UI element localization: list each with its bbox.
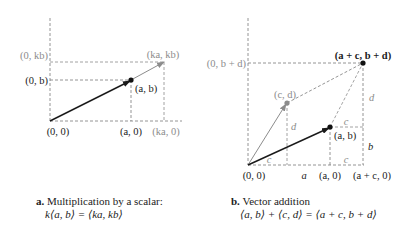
- label-y-b: (0, b): [25, 75, 48, 87]
- panel-b-diagram: (0, b + d) (a + c, b + d) (c, d) (a, b) …: [207, 18, 392, 182]
- caption-b-title: Vector addition: [242, 195, 310, 207]
- caption-a: a. Multiplication by a scalar: k⟨a, b⟩ =…: [36, 195, 163, 221]
- label-y-bd: (0, b + d): [207, 58, 247, 70]
- point-ab: [128, 77, 133, 82]
- label-y-kb: (0, kb): [20, 50, 48, 62]
- label-seg-a: a: [301, 170, 306, 181]
- caption-b: b. Vector addition ⟨a, b⟩ + ⟨c, d⟩ = ⟨a …: [231, 195, 377, 221]
- point-cd: [284, 100, 289, 105]
- label-point-ab: (a, b): [135, 83, 158, 95]
- label-point-cd: (c, d): [274, 89, 297, 101]
- caption-b-letter: b.: [231, 195, 240, 207]
- label-origin: (0, 0): [47, 126, 70, 138]
- label-seg-c-bottom-right: c: [344, 154, 349, 165]
- label-seg-d-right: d: [369, 92, 375, 103]
- label-x-ac: (a + c, 0): [353, 170, 391, 182]
- label-origin: (0, 0): [243, 170, 266, 182]
- label-x-a: (a, 0): [120, 126, 143, 138]
- vector-kab: [131, 62, 164, 80]
- caption-a-title: Multiplication by a scalar:: [47, 195, 163, 207]
- panel-a-diagram: (0, kb) (0, b) (ka, kb) (a, b) (0, 0) (a…: [20, 18, 182, 138]
- caption-a-letter: a.: [36, 195, 44, 207]
- vector-ab: [50, 81, 130, 121]
- label-x-a: (a, 0): [319, 170, 342, 182]
- label-x-ka: (ka, 0): [152, 126, 180, 138]
- label-point-sum: (a + c, b + d): [335, 50, 392, 62]
- point-ab: [327, 124, 332, 129]
- edge-cd-sum: [287, 63, 363, 103]
- caption-a-formula: k⟨a, b⟩ = ⟨ka, kb⟩: [45, 208, 123, 220]
- label-seg-c-top: c: [344, 116, 349, 127]
- point-sum: [360, 60, 365, 65]
- label-point-kakb: (ka, kb): [147, 49, 180, 61]
- caption-b-formula: ⟨a, b⟩ + ⟨c, d⟩ = ⟨a + c, b + d⟩: [240, 208, 377, 220]
- label-seg-d-left: d: [291, 121, 297, 132]
- label-seg-b: b: [368, 141, 373, 152]
- label-seg-c-bottom-left: c: [267, 154, 272, 165]
- vector-ab: [248, 128, 329, 165]
- label-point-ab: (a, b): [334, 130, 357, 142]
